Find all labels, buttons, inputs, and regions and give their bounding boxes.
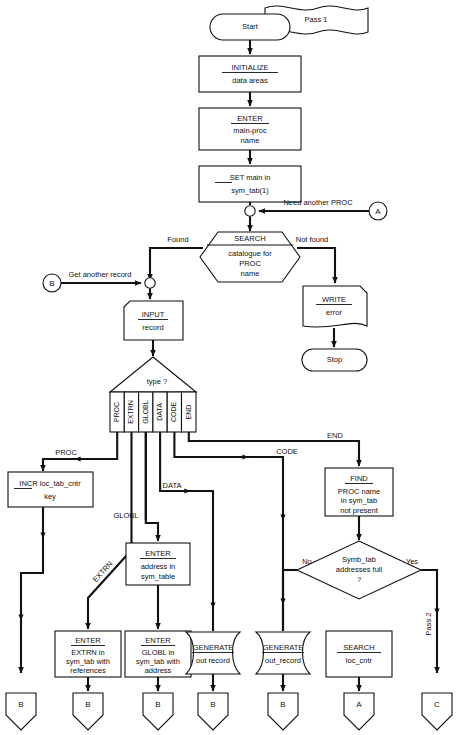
start-label: Start [242,22,259,31]
incr-kw-tspan: INCR [19,479,38,488]
connector-b2: B [73,693,103,730]
initialize-line2: data areas [232,76,268,85]
enter-address-keyword: ENTER [145,549,171,558]
type-branch-code: CODE [170,402,177,423]
incr-rest-tspan: loc_tab_cntr [38,479,81,488]
node-generate-out-record: GENERATE out record [186,632,240,674]
enter-globl-line2: GLOBL in [142,648,175,657]
symb-full-line3: ? [357,575,361,584]
label-globl: GLOBL [113,511,138,520]
write-error-line2: error [326,308,342,317]
node-find-proc: FIND PROC name in sym_tab not present [325,468,393,516]
node-enter-main: ENTER main-proc name [199,108,301,150]
node-enter-address: ENTER address in sym_table [126,543,190,585]
enter-extrn-line3: sym_tab with [66,657,110,666]
edge-not-found-branch [297,248,335,283]
label-code: CODE [276,447,298,456]
find-proc-line2: PROC name [338,487,381,496]
connector-a-in-label: A [375,207,381,216]
edge-code-branch [174,432,283,631]
connector-b4: B [198,693,228,730]
enter-extrn-line4: references [70,666,106,675]
enter-extrn-line2: EXTRN in [71,648,104,657]
find-proc-keyword: FIND [350,474,368,483]
generate-out-record-2-keyword: GENERATE [263,643,304,652]
connector-b1-label: B [18,700,23,709]
enter-main-line3: name [241,136,260,145]
connector-b-in-label: B [49,279,54,288]
enter-main-line2: main-proc [233,126,267,135]
symb-full-line1: Symb_tab [342,555,376,564]
type-decision-label: type ? [147,377,167,386]
generate-out-record-line2: out record [196,656,230,665]
edge-found-branch [150,248,203,280]
enter-globl-keyword: ENTER [145,636,171,645]
find-proc-line4: not present [340,506,378,515]
search-catalogue-line4: name [241,269,260,278]
symb-full-line2: addresses full [336,565,383,574]
stop-label: Stop [327,355,342,364]
node-type-decision: type ? PROC EXTRN GLOBL DATA CODE END [110,357,196,432]
enter-address-line2: address in [141,562,176,571]
connector-b2-label: B [85,700,90,709]
type-branch-end: END [185,405,192,420]
node-incr: INCR loc_tab_cntr key [8,472,93,507]
type-branch-proc: PROC [113,402,120,422]
label-end: END [327,431,343,440]
search-catalogue-line3: PROC [239,259,261,268]
search-loc-cntr-line2: loc_cntr [346,656,373,665]
enter-globl-line4: address [145,666,172,675]
initialize-keyword: INITIALIZE [231,63,268,72]
generate-out-record-2-line2: out_record [265,656,301,665]
set-main-rest-tspan: main in [244,173,270,182]
connector-b1: B [6,693,36,730]
connector-b4-label: B [210,700,215,709]
connector-b3: B [143,693,173,730]
set-main-keyword: SET main in [230,173,271,182]
edge-proc-branch [43,432,117,471]
type-branch-extrn: EXTRN [127,400,134,424]
label-found: Found [167,235,188,244]
edge-extrn-branch [88,432,132,629]
label-proc: PROC [55,448,77,457]
node-write-error: WRITE error [303,286,367,327]
edge-globl-branch [146,432,158,541]
enter-extrn-keyword: ENTER [75,636,101,645]
node-start: Start [210,14,290,40]
label-need-another-proc: Need another PROC [283,198,353,207]
node-search-loc-cntr: SEARCH loc_cntr [326,631,392,677]
incr-keyword: INCR loc_tab_cntr [19,479,81,488]
connector-a-out-label: A [356,700,362,709]
flowchart-svg: Pass 1 Start INITIALIZE data areas ENTER… [0,0,463,735]
find-proc-line3: in sym_tab [341,496,377,505]
node-set-main: SET main in sym_tab(1) [199,166,301,202]
connector-b5: B [268,693,298,730]
incr-line2: key [44,492,56,501]
node-initialize: INITIALIZE data areas [199,56,301,92]
connector-a-in: A [369,202,387,220]
edge-incr-to-b [21,507,43,673]
label-no: No [302,557,312,566]
enter-globl-line3: sym_tab with [136,657,180,666]
input-record-keyword: INPUT [142,310,165,319]
node-enter-globl: ENTER GLOBL in sym_tab with address [125,631,191,677]
node-symb-full-decision: Symb_tab addresses full ? [297,541,421,599]
label-get-another-record: Get another record [69,270,132,279]
connector-c-out-label: C [434,700,440,709]
label-not-found: Not found [296,235,329,244]
type-branch-globl: GLOBL [142,400,149,423]
enter-main-keyword: ENTER [237,114,263,123]
label-yes: Yes [406,557,418,566]
connector-c-out: C [422,693,452,730]
set-main-kw-tspan: SET [230,173,245,182]
junction-record-loop [145,278,155,288]
node-input-record: INPUT record [124,301,183,340]
connector-b3-label: B [155,700,160,709]
pass1-label: Pass 1 [305,15,328,24]
connector-b5-label: B [280,700,285,709]
edge-data-branch [160,432,213,631]
input-record-line2: record [142,323,163,332]
connector-b-in: B [43,274,61,292]
search-catalogue-keyword: SEARCH [234,234,265,243]
label-pass2: Pass 2 [424,613,433,636]
